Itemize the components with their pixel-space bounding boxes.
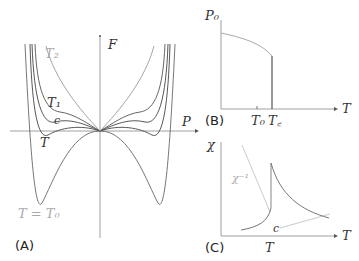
chi-high-curve — [271, 163, 329, 218]
c-point-label: c — [273, 222, 279, 235]
t-axis-label-b: T — [342, 101, 352, 116]
c-label: c — [54, 114, 60, 127]
panel-a: F P T₂ T₁ c T T = T₀ (A) — [10, 35, 199, 253]
panel-b: P₀ T T₀ T꜀ (B) — [204, 8, 352, 128]
panel-b-label: (B) — [205, 113, 224, 128]
panel-c-label: (C) — [205, 240, 224, 255]
figure: F P T₂ T₁ c T T = T₀ (A) P₀ T T₀ T꜀ (B) … — [0, 0, 359, 261]
t0-label: T = T₀ — [18, 206, 60, 221]
f-axis-label: F — [107, 37, 118, 52]
order-parameter-curve — [221, 33, 272, 56]
chi-axis-label: χ — [206, 137, 216, 152]
chi-low-curve — [241, 208, 271, 230]
t-label: T — [40, 135, 50, 150]
p0-axis-label: P₀ — [204, 8, 220, 23]
chi-inverse-label: χ⁻¹ — [231, 172, 249, 185]
panel-a-label: (A) — [15, 238, 34, 253]
p-axis-label: P — [181, 114, 191, 129]
tc-tick-label: T꜀ — [268, 113, 282, 128]
t0-tick-label: T₀ — [251, 113, 266, 128]
panel-c: χ χ⁻¹ c T T (C) — [205, 137, 352, 255]
t1-label: T₁ — [47, 95, 61, 110]
t2-label: T₂ — [45, 46, 59, 61]
t-tick-label-c: T — [265, 240, 275, 255]
t-axis-label-c: T — [342, 228, 352, 243]
